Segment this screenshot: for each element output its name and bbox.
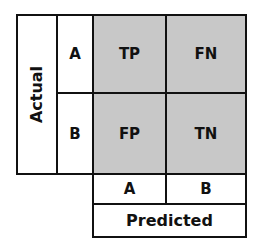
col-label-b: B: [165, 173, 247, 205]
row-label-b: B: [56, 92, 94, 175]
predicted-axis-label-box: Predicted: [92, 203, 247, 238]
cell-tp: TP: [92, 14, 167, 94]
actual-axis-label-box: Actual: [16, 14, 58, 175]
cell-fn: FN: [165, 14, 247, 94]
row-label-a: A: [56, 14, 94, 94]
cell-tn: TN: [165, 92, 247, 175]
predicted-axis-label: Predicted: [126, 211, 213, 230]
col-label-a: A: [92, 173, 167, 205]
actual-axis-label: Actual: [28, 66, 47, 123]
cell-fp: FP: [92, 92, 167, 175]
